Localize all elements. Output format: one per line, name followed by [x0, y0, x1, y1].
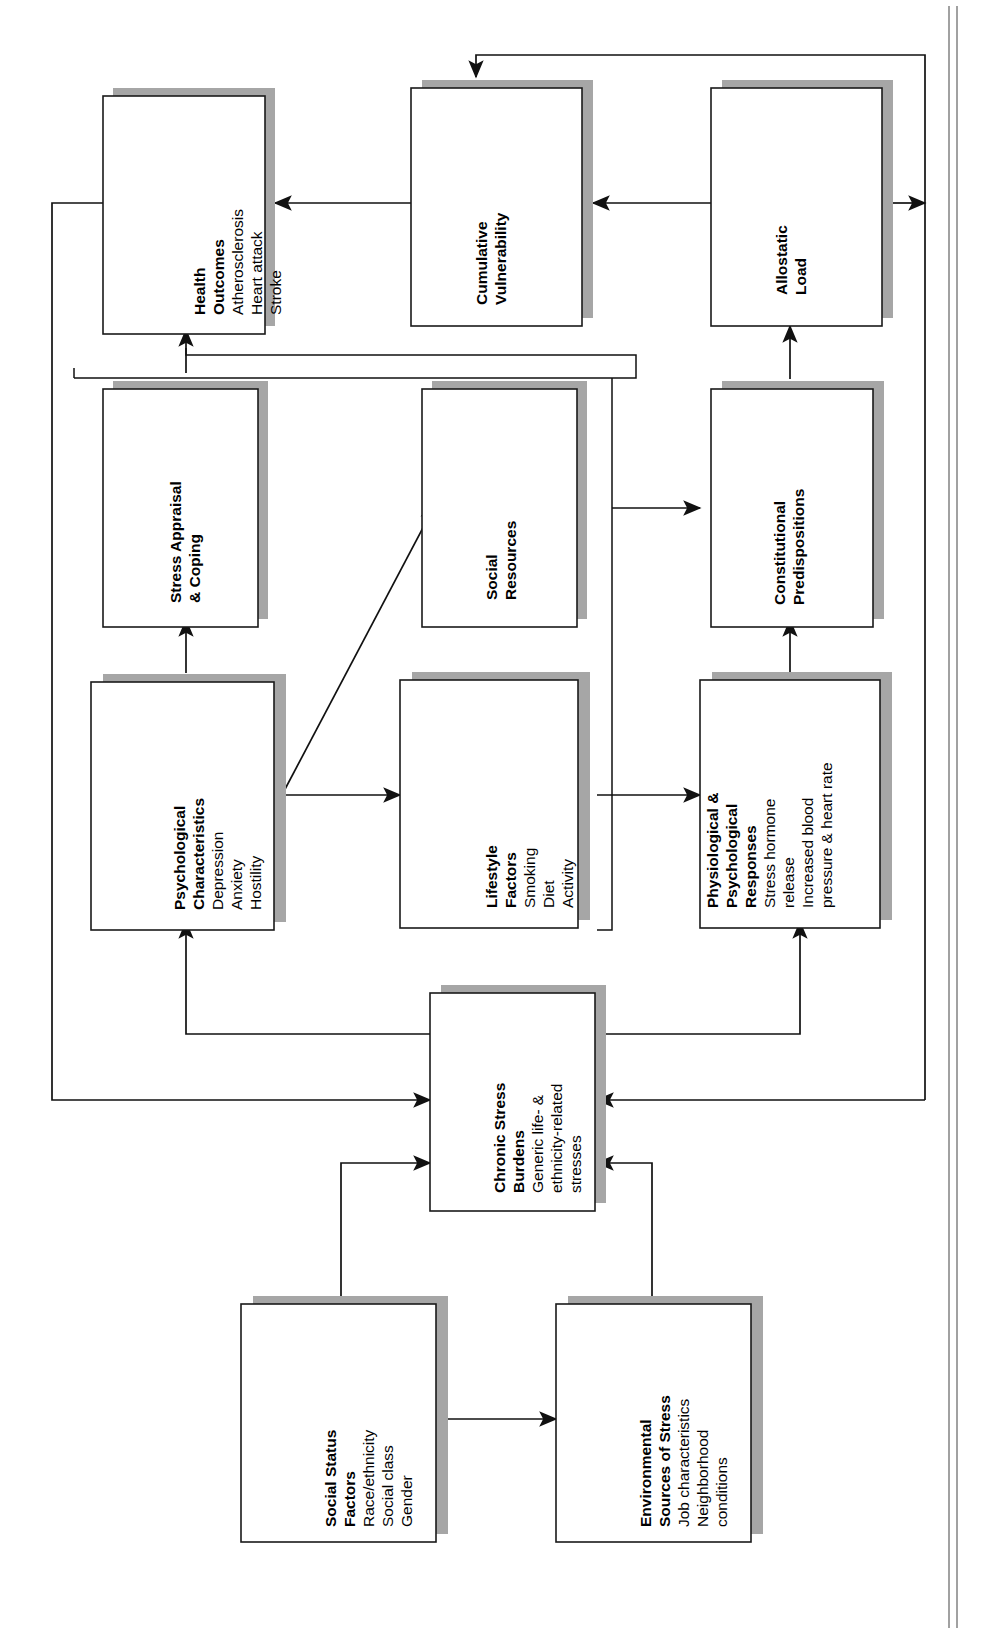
node-heading-line: Chronic Stress	[491, 1083, 508, 1193]
node-item: Diet	[540, 880, 557, 908]
node-heading-line: Health	[191, 268, 208, 315]
node-psychological-characteristics[interactable]: Psychological Characteristics Depression…	[91, 674, 286, 930]
node-heading-line: Social Status	[322, 1430, 339, 1527]
node-item: Anxiety	[228, 859, 245, 910]
bracket-appraisal-down	[597, 378, 612, 930]
node-heading-line: Psychological	[723, 804, 740, 908]
node-item: conditions	[713, 1457, 730, 1527]
node-heading-line: Stress Appraisal	[167, 481, 184, 603]
node-heading-line: Cumulative	[473, 221, 490, 305]
node-item: Smoking	[521, 848, 538, 908]
node-item: Social class	[379, 1445, 396, 1527]
node-heading-line: Lifestyle	[483, 845, 500, 908]
node-heading-line: & Coping	[186, 534, 203, 603]
node-heading-line: Factors	[502, 852, 519, 908]
node-heading-line: Load	[792, 258, 809, 295]
node-item: stresses	[567, 1135, 584, 1193]
node-lifestyle-factors[interactable]: Lifestyle Factors Smoking Diet Activity	[400, 672, 590, 928]
node-heading-line: Allostatic	[773, 225, 790, 295]
node-social-status-factors[interactable]: Social Status Factors Race/ethnicity Soc…	[241, 1296, 448, 1542]
node-stress-appraisal-coping[interactable]: Stress Appraisal & Coping	[103, 381, 268, 627]
node-item: Activity	[559, 859, 576, 908]
node-heading-line: Psychological	[171, 806, 188, 910]
edge-health-to-chronicstress-feedback	[52, 203, 430, 1100]
node-item: Gender	[398, 1475, 415, 1527]
node-heading-line: Burdens	[510, 1130, 527, 1193]
bracket-appraisal-bus	[74, 348, 636, 378]
node-item: Race/ethnicity	[360, 1429, 377, 1527]
node-cumulative-vulnerability[interactable]: Cumulative Vulnerability	[411, 80, 593, 326]
node-environmental-sources-of-stress[interactable]: Environmental Sources of Stress Job char…	[556, 1296, 763, 1542]
node-item: Increased blood	[799, 798, 816, 908]
node-item: pressure & heart rate	[818, 762, 835, 908]
node-allostatic-load[interactable]: Allostatic Load	[711, 80, 893, 326]
node-item: Generic life- &	[529, 1094, 546, 1193]
node-item: Depression	[209, 832, 226, 910]
node-social-resources[interactable]: Social Resources	[422, 381, 587, 627]
node-constitutional-predispositions[interactable]: Constitutional Predispositions	[711, 381, 884, 627]
node-heading-line: Environmental	[637, 1419, 654, 1527]
node-heading-line: Factors	[341, 1471, 358, 1527]
node-physiological-psychological-responses[interactable]: Physiological & Psychological Responses …	[700, 672, 892, 928]
edge-socialstatus-to-chronicstress	[341, 1163, 430, 1296]
node-item: Hostility	[247, 855, 264, 910]
diagram-page: Health Outcomes Atherosclerosis Heart at…	[0, 0, 1007, 1634]
node-item: ethnicity-related	[548, 1084, 565, 1193]
node-heading-line: Sources of Stress	[656, 1395, 673, 1527]
flowchart-canvas: Health Outcomes Atherosclerosis Heart at…	[0, 0, 1007, 1634]
edge-chronicstress-to-psychological	[186, 922, 430, 1034]
node-item: Neighborhood	[694, 1430, 711, 1527]
node-heading-line: Constitutional	[771, 501, 788, 605]
node-heading-line: Vulnerability	[492, 212, 509, 305]
node-item: release	[780, 857, 797, 908]
node-item: Job characteristics	[675, 1398, 692, 1527]
node-heading-line: Predispositions	[790, 489, 807, 605]
node-item: Stroke	[267, 270, 284, 315]
node-item: Stress hormone	[761, 799, 778, 908]
node-heading-line: Social	[483, 554, 500, 600]
node-item: Heart attack	[248, 231, 265, 315]
node-heading-line: Resources	[502, 521, 519, 600]
edge-chronicstress-to-physiological	[597, 922, 800, 1034]
node-heading-line: Physiological &	[704, 793, 721, 908]
node-heading-line: Outcomes	[210, 239, 227, 315]
node-chronic-stress-burdens[interactable]: Chronic Stress Burdens Generic life- & e…	[430, 985, 606, 1211]
node-health-outcomes[interactable]: Health Outcomes Atherosclerosis Heart at…	[103, 88, 284, 334]
node-heading-line: Characteristics	[190, 798, 207, 910]
node-item: Atherosclerosis	[229, 209, 246, 315]
node-heading-line: Responses	[742, 825, 759, 908]
